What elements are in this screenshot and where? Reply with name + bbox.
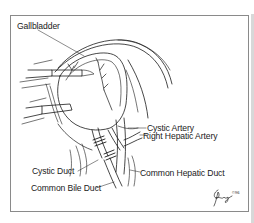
label-common-bile-duct: Common Bile Duct (31, 184, 101, 193)
cystic-artery (112, 128, 124, 148)
label-cystic-duct: Cystic Duct (32, 167, 74, 176)
vessel (96, 58, 108, 90)
gallbladder-inner-wall (66, 60, 121, 106)
liver-edge-arc-right (128, 60, 148, 118)
tissue-strand (76, 146, 81, 176)
leader-cystic-duct (78, 160, 98, 171)
label-right-hepatic-artery: Right Hepatic Artery (143, 132, 217, 141)
lower-grasper-jaw (42, 104, 72, 114)
common-bile-duct (104, 160, 116, 188)
label-gallbladder: Gallbladder (17, 22, 60, 31)
cystic-artery (108, 130, 120, 150)
hepatic-branch (118, 126, 138, 129)
liver-edge-arc (58, 40, 172, 84)
hand-line (20, 60, 52, 88)
label-common-hepatic-duct: Common Hepatic Duct (140, 169, 225, 178)
upper-grasper-handle (26, 70, 52, 78)
fold-line (46, 84, 58, 122)
vessel (104, 90, 112, 110)
fold-line (58, 124, 92, 150)
leader-gallbladder (38, 30, 84, 56)
common-bile-duct (110, 158, 122, 186)
common-hepatic-duct (116, 120, 118, 172)
lower-grasper-handle (24, 106, 42, 118)
tissue-strand (82, 144, 87, 174)
tissue-strand (128, 158, 130, 186)
upper-grasper-tip (82, 70, 94, 76)
signature-year: ©96 (232, 190, 239, 195)
right-hepatic-artery (124, 132, 140, 140)
